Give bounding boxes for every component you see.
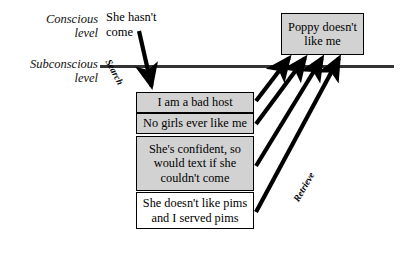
node-box-confident-line1: She's confident, so bbox=[149, 142, 241, 157]
conscious-level-label: Conscious level bbox=[0, 13, 98, 40]
conscious-thought-line2: come bbox=[106, 25, 192, 40]
retrieve-edge-label: Retrieve bbox=[292, 171, 317, 204]
node-box-confident-line2: would text if she bbox=[149, 156, 241, 171]
conscious-level-label-line1: Conscious bbox=[0, 13, 98, 27]
level-divider-line bbox=[100, 65, 394, 68]
node-box-pims: She doesn't like pims and I served pims bbox=[136, 192, 254, 229]
node-box-pims-line2: and I served pims bbox=[143, 211, 247, 226]
node-box-no-girls: No girls ever like me bbox=[136, 113, 254, 134]
node-box-confident-line3: couldn't come bbox=[149, 171, 241, 186]
conscious-thought-line1: She hasn't bbox=[106, 10, 192, 25]
node-box-bad-host: I am a bad host bbox=[136, 92, 254, 113]
node-box-no-girls-line1: No girls ever like me bbox=[143, 116, 247, 131]
node-box-conclusion-line1: Poppy doesn't bbox=[288, 20, 357, 35]
conscious-thought-text: She hasn't come bbox=[106, 10, 192, 40]
node-box-confident: She's confident, so would text if she co… bbox=[136, 136, 254, 191]
subconscious-level-label-line2: level bbox=[0, 72, 98, 86]
subconscious-level-label: Subconscious level bbox=[0, 58, 98, 85]
node-box-bad-host-line1: I am a bad host bbox=[157, 95, 232, 110]
diagram-canvas: Conscious level Subconscious level She h… bbox=[0, 0, 401, 255]
search-edge-label: Search bbox=[104, 58, 126, 87]
node-box-conclusion: Poppy doesn't like me bbox=[281, 13, 364, 55]
node-box-pims-line1: She doesn't like pims bbox=[143, 196, 247, 211]
subconscious-level-label-line1: Subconscious bbox=[0, 58, 98, 72]
conscious-level-label-line2: level bbox=[0, 27, 98, 41]
node-box-conclusion-line2: like me bbox=[288, 34, 357, 49]
retrieve-arrow-3 bbox=[256, 58, 322, 166]
